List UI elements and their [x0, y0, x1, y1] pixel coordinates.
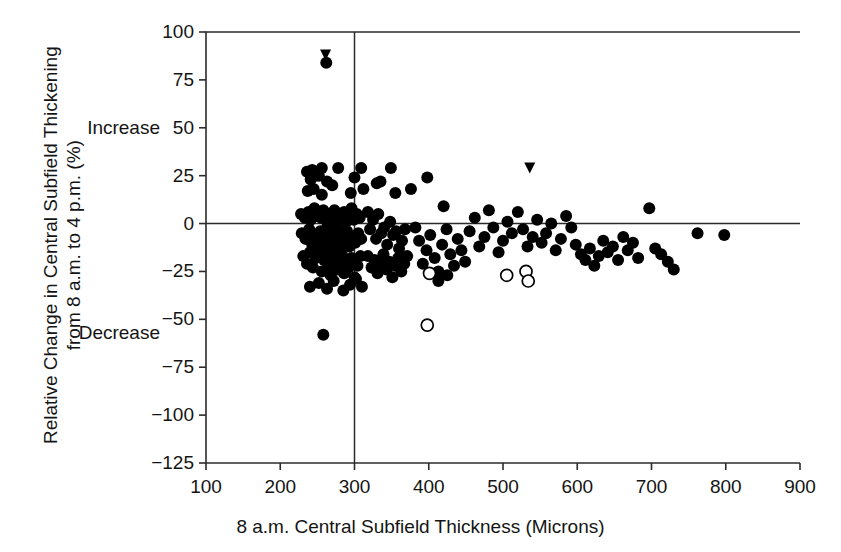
- data-point-filled-circle: [436, 239, 448, 251]
- data-point-filled-circle: [464, 225, 476, 237]
- y-tick-label: −75: [162, 357, 194, 376]
- data-point-filled-circle: [478, 231, 490, 243]
- x-tick-label: 400: [399, 477, 459, 496]
- data-point-filled-circle: [550, 244, 562, 256]
- data-point-filled-circle: [401, 250, 413, 262]
- x-tick-label: 300: [325, 477, 385, 496]
- data-point-open-circle: [421, 319, 433, 331]
- x-tick-label: 200: [250, 477, 310, 496]
- data-point-filled-circle: [612, 254, 624, 266]
- data-point-filled-circle: [483, 204, 495, 216]
- y-tick-label: 50: [173, 118, 194, 137]
- data-point-filled-circle: [632, 252, 644, 264]
- data-point-open-circle: [423, 267, 435, 279]
- y-tick-label: 75: [173, 70, 194, 89]
- data-point-filled-circle: [356, 281, 368, 293]
- data-point-filled-circle: [328, 275, 340, 287]
- x-tick-label: 700: [622, 477, 682, 496]
- y-tick-label: 100: [162, 22, 194, 41]
- series-down-triangle: [320, 49, 535, 173]
- data-point-filled-circle: [399, 223, 411, 235]
- data-point-filled-circle: [501, 216, 513, 228]
- data-point-filled-circle: [506, 227, 518, 239]
- data-point-filled-circle: [493, 246, 505, 258]
- data-point-filled-circle: [545, 218, 557, 230]
- y-tick-label: 25: [173, 166, 194, 185]
- data-point-filled-circle: [441, 269, 453, 281]
- data-point-filled-circle: [487, 221, 499, 233]
- data-point-filled-circle: [438, 200, 450, 212]
- data-point-filled-circle: [357, 183, 369, 195]
- data-point-filled-circle: [371, 177, 383, 189]
- data-point-filled-circle: [326, 179, 338, 191]
- y-tick-label: −50: [162, 309, 194, 328]
- data-point-filled-circle: [317, 329, 329, 341]
- scatter-plot-figure: 1007550250−25−50−75−100−125 100200300400…: [0, 0, 841, 552]
- data-point-filled-circle: [389, 187, 401, 199]
- data-point-filled-circle: [345, 187, 357, 199]
- data-point-filled-circle: [316, 162, 328, 174]
- data-point-open-circle: [522, 275, 534, 287]
- data-point-filled-circle: [555, 233, 567, 245]
- data-point-filled-circle: [668, 264, 680, 276]
- data-point-filled-circle: [517, 223, 529, 235]
- data-point-filled-circle: [565, 221, 577, 233]
- data-point-filled-circle: [424, 229, 436, 241]
- data-points: [295, 49, 730, 340]
- plot-canvas: [0, 0, 841, 552]
- y-axis-title: Relative Change in Central Subfield Thic…: [39, 35, 85, 455]
- x-tick-label: 100: [176, 477, 236, 496]
- data-point-filled-circle: [385, 162, 397, 174]
- data-point-filled-circle: [413, 235, 425, 247]
- data-point-filled-circle: [718, 229, 730, 241]
- x-tick-label: 900: [770, 477, 830, 496]
- y-tick-label: −25: [162, 261, 194, 280]
- data-point-filled-circle: [429, 252, 441, 264]
- data-point-filled-circle: [643, 202, 655, 214]
- y-tick-label: −100: [151, 405, 194, 424]
- data-point-filled-circle: [444, 248, 456, 260]
- data-point-filled-circle: [560, 210, 572, 222]
- data-point-filled-circle: [452, 233, 464, 245]
- data-point-filled-circle: [531, 214, 543, 226]
- data-point-filled-circle: [316, 189, 328, 201]
- data-point-filled-circle: [421, 172, 433, 184]
- x-tick-label: 800: [696, 477, 756, 496]
- data-point-filled-circle: [459, 256, 471, 268]
- data-point-open-circle: [501, 269, 513, 281]
- data-point-filled-circle: [627, 237, 639, 249]
- data-point-filled-circle: [372, 208, 384, 220]
- data-point-filled-circle: [396, 235, 408, 247]
- increase-label: Increase: [87, 118, 160, 137]
- x-tick-label: 500: [473, 477, 533, 496]
- series-filled-circle: [295, 57, 730, 341]
- reference-lines: [206, 32, 800, 463]
- data-point-filled-circle: [692, 227, 704, 239]
- data-point-filled-circle: [512, 206, 524, 218]
- x-tick-label: 600: [547, 477, 607, 496]
- y-tick-label: 0: [183, 214, 194, 233]
- data-point-filled-circle: [355, 162, 367, 174]
- data-point-filled-circle: [332, 162, 344, 174]
- data-point-filled-circle: [405, 183, 417, 195]
- data-point-filled-circle: [355, 233, 367, 245]
- y-axis-title-line2: from 8 a.m. to 4 p.m. (%): [62, 35, 85, 455]
- data-point-filled-circle: [607, 241, 619, 253]
- x-axis-title: 8 a.m. Central Subfield Thickness (Micro…: [0, 516, 841, 538]
- y-axis-title-line1: Relative Change in Central Subfield Thic…: [40, 46, 61, 444]
- data-point-filled-circle: [409, 221, 421, 233]
- plot-frame: [206, 32, 800, 463]
- data-point-filled-circle: [469, 212, 481, 224]
- data-point-filled-circle: [441, 223, 453, 235]
- decrease-label: Decrease: [79, 323, 160, 342]
- data-point-down-triangle: [524, 163, 535, 174]
- data-point-filled-circle: [455, 244, 467, 256]
- y-tick-label: −125: [151, 453, 194, 472]
